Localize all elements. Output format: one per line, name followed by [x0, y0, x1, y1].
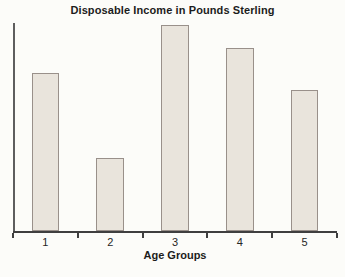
x-axis-tick — [12, 233, 14, 238]
x-axis-tick — [142, 233, 144, 238]
bar-age-group-3 — [161, 25, 189, 231]
bar-chart-figure: Disposable Income in Pounds Sterling 123… — [0, 0, 345, 277]
x-axis-line — [13, 231, 337, 233]
x-tick-label: 5 — [293, 236, 317, 248]
x-tick-label: 1 — [33, 236, 57, 248]
bar-age-group-1 — [32, 73, 60, 231]
bar-age-group-5 — [291, 90, 319, 231]
bar-age-group-4 — [226, 48, 254, 231]
x-axis-tick — [336, 233, 338, 238]
y-axis-line — [13, 23, 15, 233]
x-axis-tick — [271, 233, 273, 238]
x-tick-label: 2 — [98, 236, 122, 248]
x-axis-tick — [206, 233, 208, 238]
x-tick-label: 4 — [228, 236, 252, 248]
chart-title: Disposable Income in Pounds Sterling — [0, 4, 345, 16]
x-axis-tick — [77, 233, 79, 238]
x-axis-title: Age Groups — [13, 249, 337, 261]
x-tick-label: 3 — [163, 236, 187, 248]
bar-age-group-2 — [96, 158, 124, 231]
